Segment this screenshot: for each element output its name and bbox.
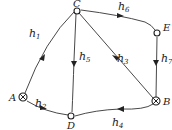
edge-label-h6: h6 xyxy=(118,0,130,14)
node-label-d: D xyxy=(66,120,75,130)
edge-label-h5: h5 xyxy=(79,50,91,64)
edge-h6 xyxy=(81,10,155,30)
arrow-icon xyxy=(153,60,159,66)
arrow-icon xyxy=(71,61,77,67)
edge-label-h7: h7 xyxy=(161,52,172,66)
node-d xyxy=(68,113,74,119)
edge-h2 xyxy=(27,101,68,115)
node-e xyxy=(154,30,160,36)
node-b xyxy=(152,97,160,105)
edge-h7 xyxy=(156,37,157,97)
node-label-c: C xyxy=(73,0,81,9)
edge-label-h2: h2 xyxy=(35,97,47,111)
node-label-b: B xyxy=(162,96,170,107)
graph-diagram: A B C D E h1 h2 h3 h4 h5 h6 h7 xyxy=(0,0,172,130)
edge-h4 xyxy=(75,104,153,116)
arrow-icon xyxy=(117,106,124,112)
edge-label-h1: h1 xyxy=(29,27,41,41)
node-label-a: A xyxy=(8,92,16,103)
arrow-icon xyxy=(117,13,124,18)
edge-h1 xyxy=(25,12,74,93)
node-label-e: E xyxy=(162,22,171,33)
node-a xyxy=(19,93,27,101)
edge-label-h4: h4 xyxy=(112,116,124,130)
edge-label-h3: h3 xyxy=(117,52,129,66)
